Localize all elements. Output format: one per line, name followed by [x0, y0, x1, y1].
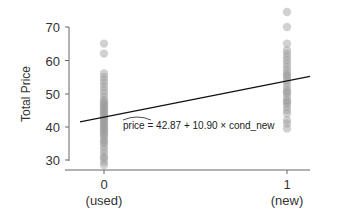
regression-equation: price = 42.87 + 10.90 × cond_new [123, 117, 275, 131]
x-tick-0: 0 [100, 177, 107, 192]
y-tick-40: 40 [46, 120, 60, 135]
x-tick-1-sublabel: (new) [271, 193, 304, 208]
data-point [100, 49, 108, 57]
data-point [100, 69, 108, 77]
y-ticks: 70 60 50 40 30 [46, 20, 69, 168]
data-point [283, 39, 291, 47]
data-point [283, 8, 291, 16]
data-point [283, 23, 291, 31]
regression-line [80, 76, 310, 122]
y-tick-30: 30 [46, 153, 60, 168]
data-point [100, 39, 108, 47]
y-axis-title: Total Price [19, 66, 33, 122]
y-tick-70: 70 [46, 20, 60, 35]
data-points [100, 8, 291, 169]
scatter-chart: 70 60 50 40 30 Total Price 0 (used) 1 (n… [0, 0, 338, 220]
y-tick-50: 50 [46, 87, 60, 102]
equation-hat-variable: price [123, 120, 145, 131]
x-tick-0-sublabel: (used) [86, 193, 123, 208]
equation-rest: = 42.87 + 10.90 × cond_new [145, 120, 276, 131]
y-tick-60: 60 [46, 54, 60, 69]
svg-text:price = 42.87 + 10.90 × cond_n: price = 42.87 + 10.90 × cond_new [123, 120, 275, 131]
x-tick-1: 1 [283, 177, 290, 192]
